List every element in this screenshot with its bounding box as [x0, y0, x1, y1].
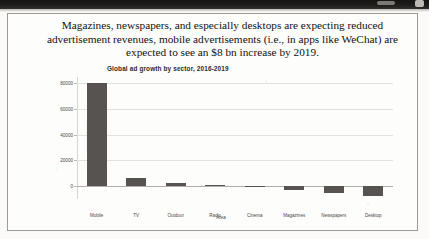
x-axis-tick-label: Outdoor	[168, 213, 184, 218]
scan-edge-strip	[0, 0, 429, 9]
chart-bar	[87, 83, 107, 186]
caption-text: Magazines, newspapers, and especially de…	[30, 19, 415, 60]
chart-bar	[205, 185, 225, 186]
scan-glint-corner	[415, 0, 424, 7]
y-axis-tick-label: 20000	[33, 158, 73, 163]
y-axis-tick-label: 40000	[33, 132, 73, 137]
y-axis-tick-label: 60000	[33, 107, 73, 112]
y-axis-tick-mark	[74, 83, 77, 84]
gridline	[77, 83, 393, 84]
x-axis-tick-label: Cinema	[247, 213, 263, 218]
y-axis-tick-mark	[74, 186, 77, 187]
x-axis-title: Area	[216, 215, 226, 220]
chart-bar	[126, 178, 146, 186]
gridline	[77, 109, 393, 110]
chart-figure: Global ad growth by sector, 2016-2019 Gr…	[41, 65, 401, 225]
y-axis-tick-mark	[74, 135, 77, 136]
y-axis-tick-label: 0	[33, 184, 73, 189]
y-axis-tick-label: 80000	[33, 81, 73, 86]
zero-baseline	[77, 186, 393, 187]
y-axis-tick-mark	[74, 109, 77, 110]
chart-bar	[363, 186, 383, 196]
gridline	[77, 135, 393, 136]
x-axis-tick-label: Desktop	[365, 213, 382, 218]
scan-edge-shadow	[0, 9, 429, 12]
chart-bar	[245, 186, 265, 187]
x-axis-tick-label: TV	[133, 213, 139, 218]
chart-bar	[166, 183, 186, 186]
x-axis-tick-label: Newspapers	[321, 213, 346, 218]
chart-bar	[284, 186, 304, 190]
x-axis-tick-label: Mobile	[90, 213, 103, 218]
y-axis-line	[77, 77, 78, 199]
chart-bar	[324, 186, 344, 193]
y-axis-tick-mark	[74, 160, 77, 161]
gridline	[77, 160, 393, 161]
chart-title: Global ad growth by sector, 2016-2019	[107, 65, 229, 72]
x-axis-tick-label: Magazines	[283, 213, 305, 218]
chart-plot-area: Growth (in US$ millions) 020000400006000…	[77, 77, 393, 199]
scan-glint	[377, 1, 395, 5]
page-panel: Magazines, newspapers, and especially de…	[7, 13, 418, 231]
